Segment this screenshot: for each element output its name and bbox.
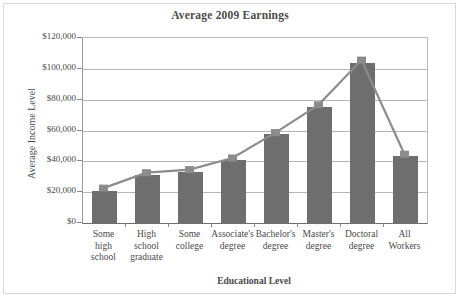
bar xyxy=(264,134,290,223)
chart-title: Average 2009 Earnings xyxy=(0,9,460,21)
y-axis-tick-label: $120,000 xyxy=(8,31,76,41)
category-label-line: college xyxy=(165,241,214,253)
category-label-line: Bachelor's xyxy=(251,229,300,241)
bar xyxy=(307,107,333,223)
category-label-line: high xyxy=(79,241,128,253)
x-axis-category-label: AllWorkers xyxy=(380,229,429,252)
category-label-line: degree xyxy=(251,241,300,253)
x-axis-tickmark xyxy=(254,223,255,227)
x-axis-category-label: Somecollege xyxy=(165,229,214,252)
x-axis-tickmark xyxy=(297,223,298,227)
y-axis-tick-label: $80,000 xyxy=(8,93,76,103)
gridline xyxy=(83,100,427,101)
y-axis-tick-label: $60,000 xyxy=(8,124,76,134)
category-label-line: Associate's xyxy=(208,229,257,241)
category-label-line: All xyxy=(380,229,429,241)
category-label-line: High xyxy=(122,229,171,241)
category-label-line: degree xyxy=(294,241,343,253)
x-axis-category-label: Bachelor'sdegree xyxy=(251,229,300,252)
category-label-line: Master's xyxy=(294,229,343,241)
x-axis-tickmark xyxy=(125,223,126,227)
bar xyxy=(221,160,247,223)
category-label-line: Doctoral xyxy=(337,229,386,241)
x-axis-category-label: Somehighschool xyxy=(79,229,128,264)
x-axis-category-label: Doctoraldegree xyxy=(337,229,386,252)
y-axis-tick-label: $0 xyxy=(8,216,76,226)
bar xyxy=(135,175,161,223)
x-axis-tickmark xyxy=(383,223,384,227)
x-axis-category-label: Master'sdegree xyxy=(294,229,343,252)
category-label-line: school xyxy=(79,252,128,264)
y-axis-tick-label: $100,000 xyxy=(8,62,76,72)
bar xyxy=(393,156,419,223)
x-axis-title: Educational Level xyxy=(82,276,426,286)
plot-area xyxy=(82,37,428,224)
category-label-line: Workers xyxy=(380,241,429,253)
x-axis-category-label: Associate'sdegree xyxy=(208,229,257,252)
x-axis-tickmark xyxy=(168,223,169,227)
gridline xyxy=(83,131,427,132)
bar xyxy=(350,63,376,223)
gridline xyxy=(83,69,427,70)
category-label-line: graduate xyxy=(122,252,171,264)
x-axis-category-label: Highschoolgraduate xyxy=(122,229,171,264)
x-axis-tickmark xyxy=(211,223,212,227)
category-label-line: degree xyxy=(337,241,386,253)
x-axis-tickmark xyxy=(340,223,341,227)
category-label-line: school xyxy=(122,241,171,253)
chart-figure: Average 2009 Earnings Average Income Lev… xyxy=(0,0,460,298)
bar xyxy=(92,191,118,223)
gridline xyxy=(83,161,427,162)
y-axis-tick-label: $20,000 xyxy=(8,185,76,195)
category-label-line: Some xyxy=(165,229,214,241)
category-label-line: degree xyxy=(208,241,257,253)
bar xyxy=(178,172,204,223)
y-axis-tick-label: $40,000 xyxy=(8,154,76,164)
category-label-line: Some xyxy=(79,229,128,241)
